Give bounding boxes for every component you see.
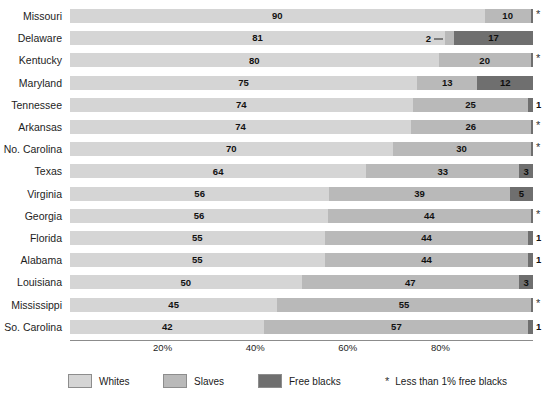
segment-whites: 70	[70, 142, 393, 156]
segment-value-label: 13	[442, 78, 453, 88]
segment-value-label: 44	[424, 211, 435, 221]
segment-free-blacks	[531, 142, 533, 156]
segment-value-label: 80	[249, 56, 260, 66]
segment-value-label: 44	[421, 255, 432, 265]
row-outside-value-label: 1	[536, 250, 541, 270]
chart-row: No. Carolina7030*	[0, 139, 548, 159]
row-label-arkansas: Arkansas	[0, 117, 62, 137]
segment-value-label: 42	[162, 322, 173, 332]
segment-slaves: 2	[445, 31, 454, 45]
stacked-bar: 5644	[70, 209, 533, 223]
chart-row: Louisiana50473	[0, 272, 548, 292]
chart-row: Florida55441	[0, 228, 548, 248]
stacked-bar: 4555	[70, 298, 533, 312]
chart-row: Kentucky8020*	[0, 50, 548, 70]
segment-whites: 50	[70, 275, 302, 289]
segment-value-label: 70	[226, 144, 237, 154]
stacked-bar: 64333	[70, 164, 533, 178]
x-tick-label: 60%	[338, 342, 357, 353]
stacked-bar: 81217	[70, 31, 533, 45]
row-label-kentucky: Kentucky	[0, 50, 62, 70]
plot-area: Missouri9010*Delaware81217Kentucky8020*M…	[0, 0, 548, 348]
row-label-maryland: Maryland	[0, 73, 62, 93]
segment-value-label: 5	[519, 189, 524, 199]
legend-label: Whites	[99, 376, 130, 387]
x-tick-label: 80%	[431, 342, 450, 353]
chart-row: Mississippi4555*	[0, 295, 548, 315]
segment-whites: 55	[70, 253, 325, 267]
segment-slaves: 44	[325, 231, 529, 245]
segment-slaves: 47	[302, 275, 520, 289]
x-tick-label: 20%	[153, 342, 172, 353]
legend-swatch-icon	[163, 374, 187, 388]
segment-whites: 56	[70, 209, 328, 223]
segment-value-label: 2	[426, 33, 445, 44]
segment-free-blacks	[528, 231, 533, 245]
segment-slaves: 44	[325, 253, 529, 267]
chart-row: Missouri9010*	[0, 6, 548, 26]
stacked-bar: 751312	[70, 76, 533, 90]
segment-value-label: 81	[252, 33, 263, 43]
row-asterisk-marker: *	[536, 50, 540, 70]
segment-slaves: 30	[393, 142, 531, 156]
segment-value-label: 10	[502, 11, 513, 21]
chart-row: Georgia5644*	[0, 206, 548, 226]
segment-slaves: 55	[277, 298, 530, 312]
row-label-florida: Florida	[0, 228, 62, 248]
segment-whites: 55	[70, 231, 325, 245]
row-asterisk-marker: *	[536, 206, 540, 226]
segment-whites: 42	[70, 320, 264, 334]
segment-value-label: 90	[272, 11, 283, 21]
x-axis-line	[70, 340, 533, 341]
segment-value-label: 55	[399, 300, 410, 310]
segment-value-label: 47	[405, 278, 416, 288]
segment-free-blacks	[531, 53, 533, 67]
segment-value-label: 44	[421, 233, 432, 243]
segment-slaves: 10	[485, 9, 531, 23]
stacked-bar: 7030	[70, 142, 533, 156]
segment-value-label: 20	[479, 56, 490, 66]
chart-row: Virginia56395	[0, 184, 548, 204]
row-outside-value-label: 1	[536, 95, 541, 115]
segment-value-label: 64	[213, 167, 224, 177]
legend-label: Slaves	[194, 376, 224, 387]
segment-free-blacks: 5	[510, 187, 533, 201]
segment-value-label: 56	[194, 189, 205, 199]
segment-free-blacks: 12	[477, 76, 533, 90]
segment-value-label: 45	[168, 300, 179, 310]
chart-row: Texas64333	[0, 161, 548, 181]
segment-value-label: 12	[500, 78, 511, 88]
chart-row: Delaware81217	[0, 28, 548, 48]
segment-value-label: 74	[236, 100, 247, 110]
segment-whites: 90	[70, 9, 485, 23]
chart-row: Tennessee74251	[0, 95, 548, 115]
segment-value-label: 57	[391, 322, 402, 332]
row-label-so-carolina: So. Carolina	[0, 317, 62, 337]
stacked-bar: 56395	[70, 187, 533, 201]
row-outside-value-label: 1	[536, 317, 541, 337]
stacked-bar: 7426	[70, 120, 533, 134]
row-asterisk-marker: *	[536, 6, 540, 26]
legend-item-slaves[interactable]: Slaves	[163, 372, 224, 390]
chart-row: Maryland751312	[0, 73, 548, 93]
segment-slaves: 44	[328, 209, 531, 223]
chart-root: Missouri9010*Delaware81217Kentucky8020*M…	[0, 0, 548, 402]
segment-whites: 45	[70, 298, 277, 312]
row-label-alabama: Alabama	[0, 250, 62, 270]
segment-free-blacks	[528, 253, 533, 267]
legend-swatch-icon	[258, 374, 282, 388]
segment-value-label: 39	[414, 189, 425, 199]
segment-whites: 74	[70, 120, 411, 134]
segment-whites: 80	[70, 53, 439, 67]
row-label-missouri: Missouri	[0, 6, 62, 26]
segment-slaves: 13	[417, 76, 477, 90]
segment-free-blacks: 17	[454, 31, 533, 45]
segment-value-label: 33	[437, 167, 448, 177]
stacked-bar: 7425	[70, 98, 533, 112]
segment-value-label: 75	[238, 78, 249, 88]
legend-item-free-blacks[interactable]: Free blacks	[258, 372, 341, 390]
legend-item-whites[interactable]: Whites	[68, 372, 130, 390]
callout-leader-line	[434, 39, 443, 40]
segment-slaves: 57	[264, 320, 528, 334]
stacked-bar: 5544	[70, 231, 533, 245]
